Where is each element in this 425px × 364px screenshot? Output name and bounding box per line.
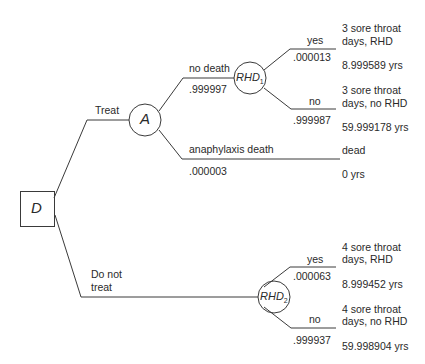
rhd1-yes-label: yes [307, 34, 323, 46]
outcome-notreat-rhd-line1: 4 sore throat [342, 241, 401, 253]
chance-node-a-label: A [140, 110, 150, 127]
no-death-prob: .999997 [189, 83, 227, 95]
outcome-treat-rhd-value: 8.999589 yrs [342, 59, 403, 71]
outcome-treat-no-rhd-line2: days, no RHD [342, 97, 407, 109]
rhd2-no-label: no [309, 313, 321, 325]
outcome-dead-value: 0 yrs [342, 168, 365, 180]
outcome-treat-rhd-line2: days, RHD [342, 35, 393, 47]
outcome-notreat-no-rhd-value: 59.998904 yrs [342, 340, 409, 352]
rhd2-yes-label: yes [307, 253, 323, 265]
do-not-treat-branch-line [55, 215, 258, 297]
outcome-treat-rhd-line1: 3 sore throat [342, 22, 401, 34]
outcome-notreat-no-rhd-line2: days, no RHD [342, 315, 407, 327]
chance-node-rhd2-label: RHD2 [260, 290, 288, 304]
rhd1-no-label: no [309, 95, 321, 107]
outcome-treat-no-rhd-line1: 3 sore throat [342, 84, 401, 96]
chance-node-rhd1-label: RHD1 [236, 71, 264, 85]
outcome-notreat-rhd-value: 8.999452 yrs [342, 278, 403, 290]
rhd2-yes-prob: .000063 [293, 270, 331, 282]
treat-branch-line [54, 120, 129, 198]
outcome-treat-no-rhd-value: 59.999178 yrs [342, 121, 409, 133]
do-not-treat-label-line2: treat [91, 281, 112, 293]
treat-label: Treat [95, 104, 119, 116]
rhd1-no-prob: .999987 [293, 114, 331, 126]
rhd1-no-branch-line [264, 88, 336, 109]
rhd2-no-prob: .999937 [293, 334, 331, 346]
do-not-treat-label-line1: Do not [91, 268, 122, 280]
decision-node-label: D [31, 199, 42, 216]
outcome-dead-label: dead [342, 144, 365, 156]
anaphylaxis-death-prob: .000003 [189, 165, 227, 177]
outcome-notreat-no-rhd-line1: 4 sore throat [342, 303, 401, 315]
outcome-notreat-rhd-line2: days, RHD [342, 253, 393, 265]
no-death-label: no death [189, 62, 230, 74]
anaphylaxis-death-label: anaphylaxis death [189, 143, 274, 155]
rhd1-yes-prob: .000013 [293, 51, 331, 63]
